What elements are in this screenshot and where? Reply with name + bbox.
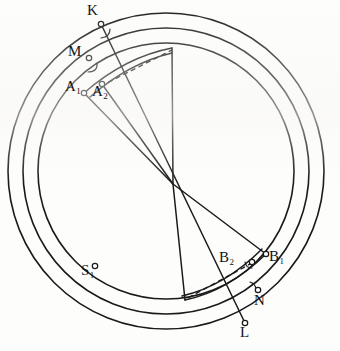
point-label-N: N xyxy=(254,293,265,310)
point-label-A1: A1 xyxy=(65,79,81,96)
point-marker-B2 xyxy=(249,259,254,264)
diagram-canvas xyxy=(0,0,340,351)
point-label-B2: B2 xyxy=(219,250,234,267)
point-label-B1: B1 xyxy=(269,249,284,266)
point-label-A2: A2 xyxy=(92,84,108,101)
point-marker-B1 xyxy=(263,251,268,256)
outer-circle xyxy=(8,13,324,329)
point-label-K: K xyxy=(87,3,98,20)
point-marker-M xyxy=(86,55,91,60)
rays-from-center-group xyxy=(84,48,266,300)
point-marker-K xyxy=(98,21,103,26)
point-label-L: L xyxy=(240,325,250,342)
secant-line-K-L-group xyxy=(101,24,245,323)
line-K-L xyxy=(101,24,245,323)
ray-to-arc-top xyxy=(172,48,173,184)
concentric-circles-group xyxy=(8,13,324,329)
ray-to-A1 xyxy=(84,93,173,184)
point-label-M: M xyxy=(68,44,82,61)
ray-to-arc-bottom xyxy=(173,184,185,300)
point-marker-A1 xyxy=(81,90,86,95)
middle-circle xyxy=(23,28,309,314)
geometric-figure: K M A1 A2 S1 B2 B1 N L xyxy=(0,0,340,351)
point-label-S1: S1 xyxy=(81,263,94,280)
ray-to-B1 xyxy=(173,184,266,254)
chord-arcs-group xyxy=(84,48,266,300)
